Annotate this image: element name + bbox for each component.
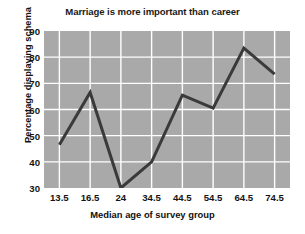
data-series-line <box>44 31 290 188</box>
y-axis-tick-labels: 30405060708090 <box>14 31 40 188</box>
x-tick-label: 74.5 <box>253 192 297 203</box>
series-polyline <box>59 48 274 188</box>
chart-figure: Marriage is more important than career P… <box>0 0 305 234</box>
y-tick-label: 50 <box>14 130 40 141</box>
x-axis-tick-labels: 13.516.52434.544.554.564.574.5 <box>44 192 290 206</box>
y-tick-label: 40 <box>14 156 40 167</box>
y-tick-label: 80 <box>14 52 40 63</box>
y-tick-label: 90 <box>14 26 40 37</box>
chart-title: Marriage is more important than career <box>0 6 305 17</box>
plot-area <box>44 31 290 188</box>
y-tick-label: 30 <box>14 183 40 194</box>
x-axis-title: Median age of survey group <box>0 209 305 220</box>
y-tick-label: 70 <box>14 78 40 89</box>
y-tick-label: 60 <box>14 104 40 115</box>
